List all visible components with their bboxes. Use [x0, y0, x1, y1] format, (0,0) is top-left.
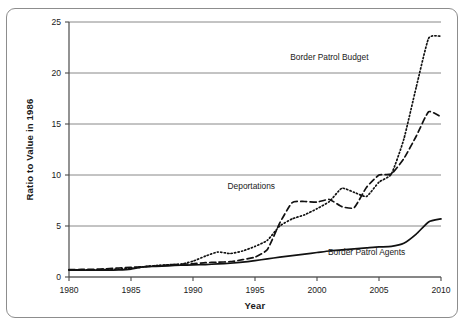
y-tick-label-25: 25 — [51, 17, 61, 27]
data-line-border-patrol-budget — [69, 36, 441, 270]
y-tick-label-5: 5 — [56, 221, 61, 231]
x-tick-label-1995: 1995 — [245, 285, 264, 295]
gridline-group — [69, 22, 441, 277]
series-label-border-patrol-agents: Border Patrol Agents — [328, 247, 405, 257]
y-tick-label-15: 15 — [51, 119, 61, 129]
series-label-deportations: Deportations — [228, 181, 276, 191]
x-tick-label-2005: 2005 — [369, 285, 388, 295]
x-tick-label-1990: 1990 — [183, 285, 202, 295]
y-tick-label-0: 0 — [56, 272, 61, 282]
y-axis-tick-group: 0510152025 — [51, 17, 69, 282]
x-tick-label-1980: 1980 — [59, 285, 78, 295]
x-tick-label-2010: 2010 — [431, 285, 450, 295]
line-chart-canvas: 0510152025 1980198519901995200020052010 … — [0, 0, 466, 326]
x-axis-title: Year — [245, 300, 266, 311]
data-series-group — [69, 36, 441, 270]
y-axis-title: Ratio to Value in 1986 — [24, 98, 35, 200]
data-line-border-patrol-agents — [69, 219, 441, 270]
x-tick-label-1985: 1985 — [121, 285, 140, 295]
chart-figure: 0510152025 1980198519901995200020052010 … — [0, 0, 466, 326]
series-label-border-patrol-budget: Border Patrol Budget — [290, 52, 369, 62]
x-axis-tick-group: 1980198519901995200020052010 — [59, 277, 450, 295]
y-tick-label-10: 10 — [51, 170, 61, 180]
x-tick-label-2000: 2000 — [307, 285, 326, 295]
y-tick-label-20: 20 — [51, 68, 61, 78]
